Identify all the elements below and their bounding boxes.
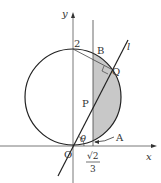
y-axis-arrow-icon [71,12,75,18]
line-l-label: l [127,41,130,52]
x-axis-label: x [146,151,152,162]
point-q-label: Q [112,66,120,77]
tick-denominator: 3 [90,164,96,174]
point-p-label: P [82,98,89,109]
point-b-label: B [97,45,104,56]
geometry-diagram: y x 2 B Q P A l θ O √2 3 [0,0,161,183]
point-a-label: A [115,132,124,143]
pointer-arrowhead-icon [94,140,99,144]
y-intercept-label: 2 [74,38,80,49]
tick-numerator: √2 [87,151,98,161]
x-axis-arrow-icon [151,144,157,148]
angle-theta-label: θ [80,133,86,144]
y-axis-label: y [61,8,68,19]
segment-to-q [73,49,111,69]
origin-label: O [64,149,72,160]
